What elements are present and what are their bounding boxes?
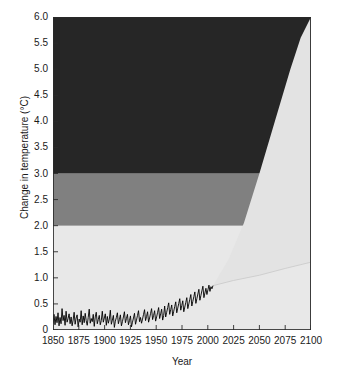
y-axis-tick-label: 2.0: [14, 221, 48, 231]
y-axis-tick-label: 2.5: [14, 195, 48, 205]
y-axis-tick-label: 4.0: [14, 116, 48, 126]
x-axis-tick-label: 2100: [291, 336, 331, 346]
figure-caption: [8, 374, 332, 381]
x-axis-title: Year: [53, 356, 311, 367]
y-axis-tick-label: 3.0: [14, 169, 48, 179]
y-axis-tick-label: 5.5: [14, 38, 48, 48]
y-axis-tick-label: 0.5: [14, 299, 48, 309]
y-axis-tick-label: 0: [14, 325, 48, 335]
plot-canvas: [53, 17, 311, 330]
y-axis-tick-label: 5.0: [14, 64, 48, 74]
y-axis-tick-label: 1.5: [14, 247, 48, 257]
climate-projection-figure: Change in temperature (°C) 00.51.01.52.0…: [0, 0, 340, 381]
plot-area: [53, 17, 311, 330]
y-axis-tick-label: 4.5: [14, 90, 48, 100]
y-axis-tick-label: 6.0: [14, 12, 48, 22]
y-axis-tick-label: 3.5: [14, 142, 48, 152]
y-axis-tick-label: 1.0: [14, 273, 48, 283]
